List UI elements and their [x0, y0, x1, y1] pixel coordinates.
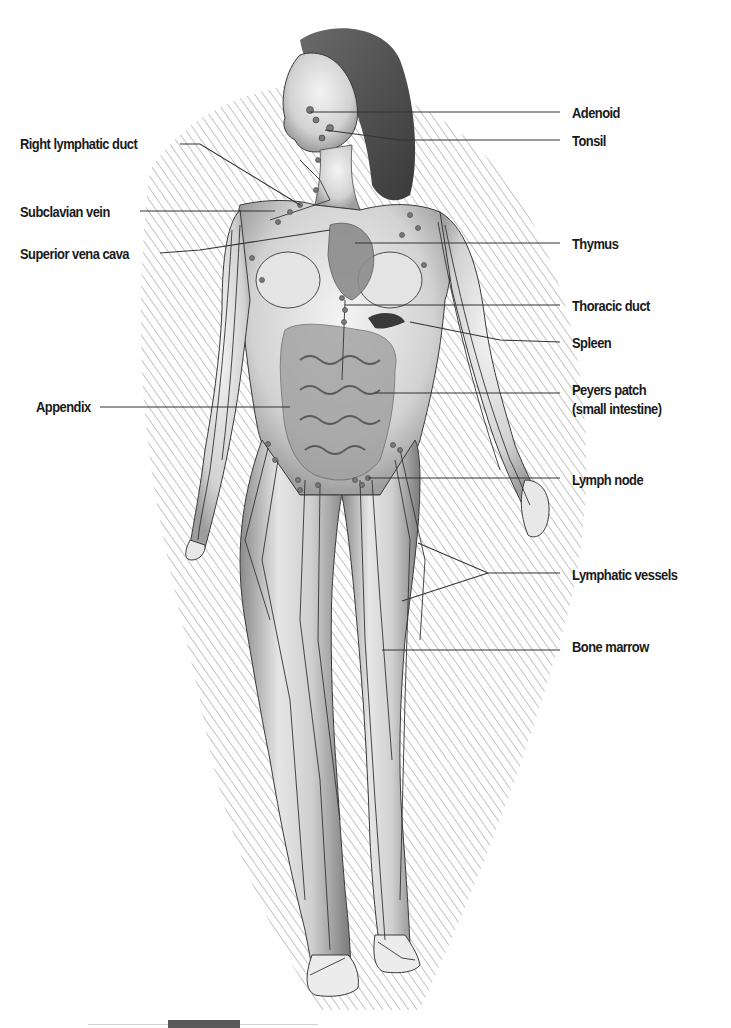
lymphatic-system-illustration	[0, 0, 731, 1028]
label-lymph-node: Lymph node	[572, 471, 643, 488]
label-thymus: Thymus	[572, 235, 618, 252]
label-thoracic-duct: Thoracic duct	[572, 297, 650, 314]
label-bone-marrow: Bone marrow	[572, 638, 649, 655]
label-adenoid: Adenoid	[572, 104, 620, 121]
label-right-lymphatic-duct: Right lymphatic duct	[20, 135, 137, 152]
label-appendix: Appendix	[36, 398, 91, 415]
label-superior-vena-cava: Superior vena cava	[20, 245, 129, 262]
label-peyers-patch-subtitle: (small intestine)	[572, 400, 661, 417]
left-foot	[307, 955, 358, 996]
label-peyers-patch: Peyers patch	[572, 381, 646, 398]
intestines	[280, 324, 396, 480]
left-breast	[256, 252, 320, 308]
label-spleen: Spleen	[572, 334, 611, 351]
bottom-tab-bar	[168, 1020, 240, 1028]
label-lymphatic-vessels: Lymphatic vessels	[572, 566, 677, 583]
label-tonsil: Tonsil	[572, 132, 606, 149]
label-subclavian-vein: Subclavian vein	[20, 203, 110, 220]
